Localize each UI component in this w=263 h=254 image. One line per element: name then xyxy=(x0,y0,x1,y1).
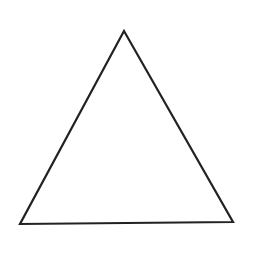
triangle-figure xyxy=(0,0,263,254)
triangle-outline xyxy=(20,31,233,224)
diagram-canvas xyxy=(0,0,263,254)
